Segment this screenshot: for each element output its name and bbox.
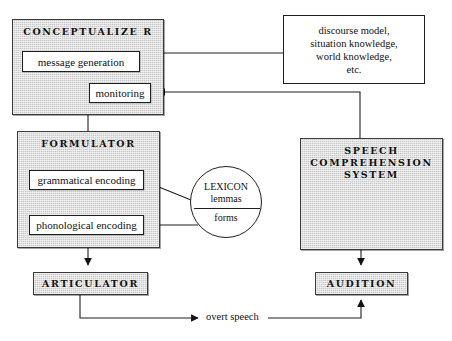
node-lexicon[interactable]: LEXICON lemmas forms [190, 166, 262, 238]
edge-scs-to-monitoring [158, 92, 360, 138]
phonological-encoding-label: phonological encoding [36, 219, 137, 231]
module-speech-comprehension-system[interactable]: SPEECH COMPREHENSION SYSTEM [300, 138, 443, 250]
formulator-label: FORMULATOR [41, 132, 136, 150]
lexicon-forms-label: forms [191, 212, 261, 223]
edge-overt-speech-to-audition [268, 300, 361, 318]
grammatical-encoding-label: grammatical encoding [37, 174, 135, 186]
lexicon-divider [194, 208, 260, 209]
monitoring-label: monitoring [96, 87, 145, 99]
audition-label: AUDITION [327, 278, 397, 289]
box-grammatical-encoding[interactable]: grammatical encoding [29, 170, 144, 190]
conceptualizer-label: CONCEPTUALIZE R [23, 20, 152, 38]
message-generation-label: message generation [38, 56, 124, 68]
overt-speech-label: overt speech [203, 311, 262, 322]
knowledge-label: discourse model, situation knowledge, wo… [310, 24, 398, 76]
speech-comprehension-system-label: SPEECH COMPREHENSION SYSTEM [310, 139, 433, 181]
box-phonological-encoding[interactable]: phonological encoding [29, 215, 144, 235]
box-articulator[interactable]: ARTICULATOR [33, 272, 148, 295]
box-monitoring[interactable]: monitoring [89, 83, 151, 103]
box-audition[interactable]: AUDITION [315, 272, 408, 295]
edge-articulator-to-overt-speech [80, 295, 198, 318]
lexicon-lemmas-label: LEXICON lemmas [191, 181, 261, 204]
box-knowledge-sources[interactable]: discourse model, situation knowledge, wo… [283, 15, 425, 84]
speech-production-diagram: CONCEPTUALIZE R message generation monit… [0, 0, 452, 341]
articulator-label: ARTICULATOR [42, 278, 139, 289]
box-message-generation[interactable]: message generation [22, 51, 140, 72]
